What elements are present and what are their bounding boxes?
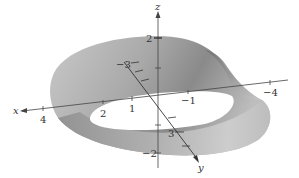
x-tick-label: 4 <box>40 114 46 125</box>
y-tick-label: −3 <box>116 59 131 70</box>
plot-canvas: x 4 2 1 −1 −4 z 2 −2 <box>0 0 299 178</box>
z-tick-label: −2 <box>142 148 157 159</box>
y-tick-label: 3 <box>168 128 174 139</box>
z-axis-label: z <box>154 1 161 12</box>
z-tick-label: 2 <box>146 33 152 44</box>
x-axis-label: x <box>13 105 19 116</box>
x-tick-label: −4 <box>263 87 278 98</box>
y-axis-label: y <box>197 162 204 173</box>
x-tick-label: −1 <box>181 95 196 106</box>
mobius-strip-figure: x 4 2 1 −1 −4 z 2 −2 <box>0 0 299 178</box>
x-tick-label: 2 <box>100 108 106 119</box>
x-tick-label: 1 <box>129 103 135 114</box>
